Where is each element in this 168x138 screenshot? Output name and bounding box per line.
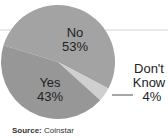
label-dont-know-value: 4%	[130, 90, 168, 104]
label-no-value: 53%	[58, 40, 92, 54]
label-dont-know: Don't Know 4%	[130, 62, 168, 104]
label-dont-know-line2: Know	[130, 76, 168, 90]
label-yes-name: Yes	[30, 76, 70, 90]
source-value: Coinstar	[44, 126, 74, 135]
source-label: Source:	[12, 126, 42, 135]
label-no-name: No	[58, 26, 92, 40]
source-note: Source: Coinstar	[12, 126, 74, 135]
label-no: No 53%	[58, 26, 92, 54]
label-yes-value: 43%	[30, 90, 70, 104]
label-yes: Yes 43%	[30, 76, 70, 104]
label-dont-know-line1: Don't	[130, 62, 168, 76]
